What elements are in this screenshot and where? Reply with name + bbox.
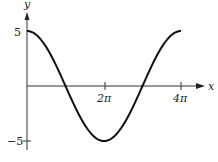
y-axis-arrow-icon (25, 12, 30, 20)
x-tick-label-4pi: 4π (172, 92, 188, 105)
x-tick-label-2pi: 2π (96, 92, 112, 105)
cosine-graph: y x 5 −5 2π 4π (0, 0, 218, 162)
y-axis-label: y (23, 0, 31, 11)
x-axis-arrow-icon (196, 83, 205, 89)
x-axis-label: x (208, 80, 215, 93)
y-tick-label-neg5: −5 (7, 135, 23, 148)
y-tick-label-5: 5 (14, 26, 21, 39)
